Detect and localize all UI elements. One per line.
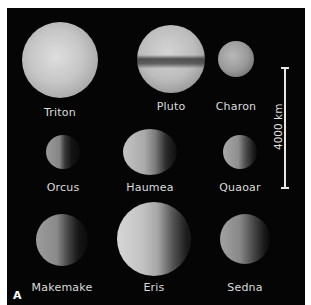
panel-letter: A — [13, 289, 22, 302]
quaoar-disc — [223, 135, 257, 169]
eris-disc — [117, 202, 191, 276]
label-eris: Eris — [143, 281, 164, 294]
scale-bar-label: 4000 km — [272, 104, 284, 150]
makemake-disc — [36, 214, 88, 266]
pluto-disc — [137, 25, 205, 93]
orcus-disc — [46, 135, 80, 169]
scale-bar-bottom-cap — [281, 187, 289, 189]
label-makemake: Makemake — [32, 281, 93, 294]
label-triton: Triton — [44, 106, 76, 119]
label-quaoar: Quaoar — [219, 181, 261, 194]
charon-disc — [218, 41, 254, 77]
scale-bar-top-cap — [281, 67, 289, 69]
label-charon: Charon — [216, 100, 257, 113]
label-sedna: Sedna — [227, 281, 262, 294]
triton-disc — [22, 22, 98, 98]
label-orcus: Orcus — [47, 181, 80, 194]
scale-bar-line — [284, 68, 286, 189]
label-haumea: Haumea — [126, 181, 173, 194]
sedna-disc — [220, 214, 270, 264]
haumea-disc — [123, 129, 177, 175]
label-pluto: Pluto — [157, 100, 186, 113]
